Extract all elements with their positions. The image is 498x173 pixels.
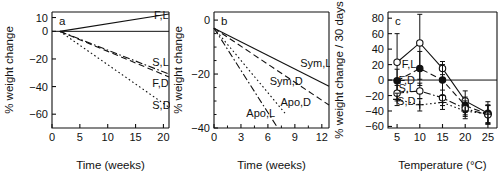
xtick-label-c-0: 5 [394, 131, 400, 143]
series-label-c-2: S,L [398, 82, 415, 94]
series-label-b-0: Sym,L [300, 57, 330, 69]
xtick-label-a-4: 20 [157, 131, 169, 143]
xaxis-title-a: Time (weeks) [76, 159, 145, 171]
figure-root: 100−20−40−6005101520F,LS,LF,DS,DaTime (w… [0, 0, 498, 173]
marker-c-3-1 [416, 101, 424, 109]
yaxis-title-c: % weight change / 30 days [333, 1, 345, 139]
xtick-label-c-2: 15 [436, 131, 448, 143]
series-a-sd [60, 31, 169, 107]
series-label-a-0: F,L [154, 9, 169, 21]
panel-a: 100−20−40−6005101520F,LS,LF,DS,DaTime (w… [0, 0, 170, 173]
yaxis-title-b: % weight change [172, 26, 184, 114]
series-label-a-2: F,D [152, 77, 169, 89]
ytick-label-c-4: 0 [378, 74, 384, 86]
xtick-label-a-0: 0 [49, 131, 55, 143]
ytick-label-c-3: 20 [372, 59, 384, 71]
xtick-label-c-1: 10 [414, 131, 426, 143]
series-b-apod [214, 28, 285, 113]
xtick-label-b-1: 3 [238, 131, 244, 143]
series-label-a-3: S,D [152, 99, 170, 111]
xtick-label-a-2: 10 [102, 131, 114, 143]
series-label-b-3: Apo,L [246, 107, 275, 119]
xtick-label-b-2: 6 [265, 131, 271, 143]
xtick-label-c-3: 20 [459, 131, 471, 143]
series-line-a-3 [60, 31, 169, 107]
panel-letter-b: b [221, 15, 227, 27]
xtick-label-b-3: 9 [292, 131, 298, 143]
panel-b: 0−20−40036912Sym,LSym,DApo,DApo,LbTime (… [170, 0, 330, 173]
marker-c-0-0 [394, 59, 400, 65]
panel-a-svg: 100−20−40−6005101520F,LS,LF,DS,DaTime (w… [0, 0, 170, 173]
ytick-label-c-1: 60 [372, 28, 384, 40]
ytick-label-a-4: −60 [29, 108, 48, 120]
ytick-label-a-1: 0 [42, 25, 48, 37]
series-label-c-3: S,D [397, 95, 415, 107]
series-label-b-1: Sym,D [270, 75, 303, 87]
series-a-fl [60, 14, 169, 31]
ytick-label-b-0: 0 [204, 14, 210, 26]
xaxis-title-c: Temperature (°C) [398, 159, 486, 171]
xtick-label-a-3: 15 [129, 131, 141, 143]
ytick-label-c-5: −20 [365, 90, 384, 102]
marker-c-1-2 [439, 77, 445, 83]
panel-letter-c: c [395, 15, 401, 27]
ytick-label-c-0: 80 [372, 12, 384, 24]
series-line-b-2 [214, 28, 285, 113]
panel-letter-a: a [59, 15, 66, 27]
panel-b-svg: 0−20−40036912Sym,LSym,DApo,DApo,LbTime (… [170, 0, 330, 173]
xaxis-title-b: Time (weeks) [237, 159, 306, 171]
ytick-label-c-2: 40 [372, 43, 384, 55]
xtick-label-b-4: 12 [316, 131, 328, 143]
ytick-label-c-7: −60 [365, 120, 384, 132]
ytick-label-a-0: 10 [36, 12, 48, 24]
marker-c-1-1 [417, 65, 423, 71]
marker-c-2-1 [417, 88, 423, 94]
series-label-a-1: S,L [152, 56, 169, 68]
ytick-label-a-2: −20 [29, 53, 48, 65]
yaxis-title-a: % weight change [3, 26, 15, 114]
xtick-label-c-4: 25 [482, 131, 494, 143]
series-line-a-0 [60, 14, 169, 31]
xtick-label-a-1: 5 [77, 131, 83, 143]
panel-c: 806040200−20−40−60510152025F,LF,DS,LS,Dc… [330, 0, 498, 173]
xtick-label-b-0: 0 [211, 131, 217, 143]
series-label-c-0: F,L [402, 58, 417, 70]
ytick-label-b-1: −20 [191, 68, 210, 80]
series-label-b-2: Apo,D [280, 96, 311, 108]
marker-c-0-1 [417, 40, 423, 46]
ytick-label-a-3: −40 [29, 81, 48, 93]
panel-c-svg: 806040200−20−40−60510152025F,LF,DS,LS,Dc… [330, 0, 498, 173]
ytick-label-c-6: −40 [365, 105, 384, 117]
ytick-label-b-2: −40 [191, 122, 210, 134]
